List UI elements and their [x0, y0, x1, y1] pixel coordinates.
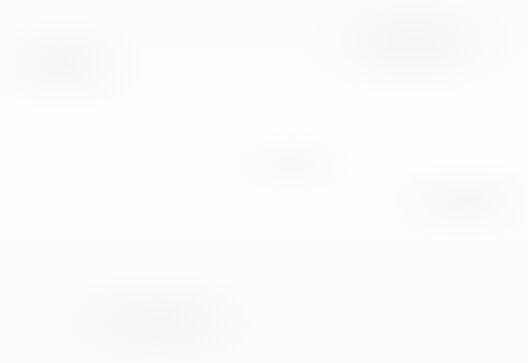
category-label: Cauliflower — [0, 77, 119, 92]
category-label: Mustard greens — [0, 112, 119, 127]
category-label: Pepper, red — [0, 25, 119, 40]
category-label: Banana — [0, 287, 119, 302]
bar-pepper-green — [121, 40, 390, 52]
bar-pepper-red — [121, 22, 414, 34]
bar-orange-juice — [121, 215, 198, 227]
bar-orange — [121, 250, 235, 262]
y-axis-line — [119, 16, 122, 299]
category-label: Spinach — [0, 130, 119, 145]
x-tick-label-50: 50 — [183, 302, 243, 318]
category-label: Tomato — [0, 147, 119, 162]
bar-chart-plot: Pepper, red Pepper, green Broccoli Cauli… — [0, 0, 528, 363]
category-label: Cantaloupe — [0, 270, 119, 285]
category-label: Green beans — [0, 182, 119, 197]
x-tick-50 — [212, 288, 214, 297]
bar-tomato — [121, 145, 151, 157]
category-label: Pepper, green — [0, 42, 119, 57]
x-tick-100 — [305, 288, 307, 297]
category-label: Carrots — [0, 200, 119, 215]
x-tick-label-100: 100 — [276, 302, 336, 318]
category-label: Orange — [0, 252, 119, 267]
chart-page: Pepper, red Pepper, green Broccoli Cauli… — [0, 0, 528, 363]
x-tick-200 — [489, 288, 491, 297]
bar-cabbage — [121, 92, 204, 104]
bar-carrots — [121, 197, 138, 209]
category-label: Tomato juice — [0, 235, 119, 250]
bar-broccoli — [121, 57, 307, 69]
bar-spinach — [121, 127, 171, 139]
x-tick-label-0: 0 — [91, 302, 151, 318]
x-tick-0 — [120, 288, 122, 297]
bar-cauliflower — [121, 75, 243, 87]
category-label: Broccoli — [0, 60, 119, 75]
x-tick-150 — [397, 288, 399, 297]
category-label: Orange juice — [0, 217, 119, 232]
bar-mustard-greens — [121, 110, 189, 122]
x-axis-title: Milligrams per 100 grams — [0, 332, 528, 347]
category-label: Cucumber — [0, 165, 119, 180]
bar-green-beans — [121, 180, 145, 192]
bar-tomato-juice — [121, 232, 149, 244]
x-tick-label-150: 150 — [368, 302, 428, 318]
bar-cucumber — [121, 162, 151, 174]
category-label: Cabbage — [0, 95, 119, 110]
x-tick-label-200: 200 — [460, 302, 520, 318]
